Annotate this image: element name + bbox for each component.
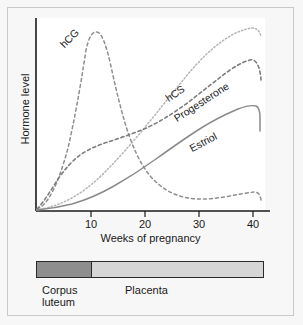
y-axis-title: Hormone level: [19, 44, 31, 174]
hormone-level-figure: 10 20 30 40 Weeks of pregnancy Hormone l…: [0, 0, 303, 325]
curve-hcg: [37, 32, 261, 209]
bar-segment-corpus-luteum: [37, 262, 92, 277]
curve-estriol: [37, 106, 260, 210]
x-tick-label-20: 20: [131, 219, 159, 230]
x-tick-label-40: 40: [239, 219, 267, 230]
bar-label-corpus-line2: luteum: [42, 296, 77, 308]
hormone-source-bar: [36, 261, 264, 278]
bar-label-corpus-line1: Corpus: [42, 284, 77, 296]
bar-segment-placenta: [92, 262, 263, 277]
curve-hcs: [37, 28, 261, 210]
bar-label-corpus-luteum: Corpus luteum: [42, 284, 77, 308]
x-tick-label-30: 30: [185, 219, 213, 230]
x-tick-label-10: 10: [77, 219, 105, 230]
bar-label-placenta: Placenta: [125, 284, 168, 296]
x-axis-title: Weeks of pregnancy: [36, 232, 265, 244]
